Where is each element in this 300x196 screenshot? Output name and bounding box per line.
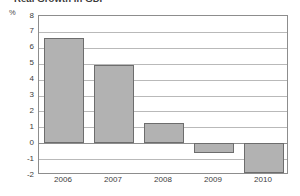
y-axis-tick-label: 2 bbox=[10, 107, 34, 115]
bar bbox=[44, 38, 84, 143]
x-axis-tick-label: 2009 bbox=[188, 176, 238, 184]
x-axis-tick-label: 2006 bbox=[38, 176, 88, 184]
chart-title: Real Growth in GDP bbox=[14, 0, 106, 4]
y-axis-tick-label: 0 bbox=[10, 139, 34, 147]
x-axis-tick-label: 2007 bbox=[88, 176, 138, 184]
chart-figure: Real Growth in GDP % 876543210-1-2 20062… bbox=[0, 0, 300, 196]
y-axis-tick-label: 4 bbox=[10, 75, 34, 83]
bar bbox=[194, 143, 234, 153]
y-axis-tick-label: -1 bbox=[10, 155, 34, 163]
y-axis-tick-label: 7 bbox=[10, 27, 34, 35]
bar bbox=[94, 65, 134, 143]
gridline bbox=[39, 32, 287, 33]
y-axis-tick-labels: 876543210-1-2 bbox=[6, 15, 34, 174]
y-axis-tick-label: 1 bbox=[10, 123, 34, 131]
y-axis-tick-label: -2 bbox=[10, 171, 34, 179]
bar bbox=[244, 143, 284, 173]
y-axis-tick-label: 5 bbox=[10, 59, 34, 67]
y-axis-tick-label: 6 bbox=[10, 43, 34, 51]
x-axis-tick-label: 2010 bbox=[238, 176, 288, 184]
bar bbox=[144, 123, 184, 144]
y-axis-tick-label: 3 bbox=[10, 91, 34, 99]
x-axis-tick-labels: 20062007200820092010 bbox=[38, 176, 288, 192]
x-axis-tick-label: 2008 bbox=[138, 176, 188, 184]
y-axis-tick-label: 8 bbox=[10, 12, 34, 20]
plot-area bbox=[38, 15, 288, 174]
